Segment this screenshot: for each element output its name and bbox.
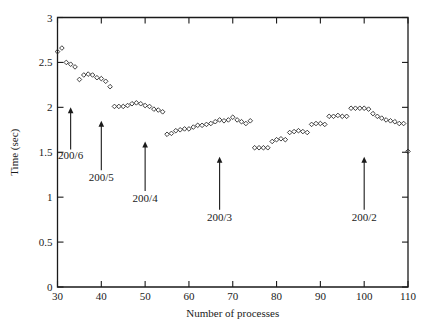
- data-point: [64, 60, 69, 65]
- data-point: [204, 122, 209, 127]
- annotation-arrowhead-icon: [68, 107, 74, 113]
- data-point: [274, 137, 279, 142]
- data-point: [81, 73, 86, 78]
- data-point: [379, 116, 384, 121]
- annotations-layer: 200/6200/5200/4200/3200/2: [58, 107, 377, 222]
- data-point: [147, 104, 152, 109]
- data-point: [73, 65, 78, 70]
- data-point: [173, 128, 178, 133]
- data-point: [108, 84, 113, 89]
- y-tick-label: 0: [47, 281, 53, 293]
- data-point: [239, 119, 244, 124]
- data-point: [230, 115, 235, 120]
- data-point: [371, 111, 376, 116]
- axis-labels-layer: 3040506070809010011000.511.522.53Number …: [8, 12, 417, 320]
- annotation-arrowhead-icon: [142, 141, 148, 147]
- data-point: [322, 122, 327, 127]
- data-point: [99, 76, 104, 81]
- data-point: [217, 118, 222, 123]
- data-point: [296, 128, 301, 133]
- annotation-arrowhead-icon: [99, 121, 105, 127]
- data-point: [152, 107, 157, 112]
- x-tick-label: 70: [227, 290, 239, 302]
- data-point: [235, 118, 240, 123]
- annotation-label: 200/2: [352, 211, 377, 223]
- data-point: [90, 73, 95, 78]
- data-point: [283, 137, 288, 142]
- y-tick-label: 3: [47, 12, 53, 24]
- data-point: [301, 129, 306, 134]
- y-tick-label: 0.5: [39, 236, 53, 248]
- y-tick-label: 2: [47, 101, 53, 113]
- x-tick-label: 90: [315, 290, 327, 302]
- x-tick-label: 50: [140, 290, 152, 302]
- data-point: [287, 130, 292, 135]
- y-tick-label: 2.5: [39, 56, 53, 68]
- data-point: [393, 119, 398, 124]
- data-point: [178, 127, 183, 132]
- data-point: [143, 103, 148, 108]
- data-point: [366, 107, 371, 112]
- annotation-label: 200/3: [207, 211, 233, 223]
- data-point: [270, 139, 275, 144]
- data-point: [209, 121, 214, 126]
- data-point: [134, 101, 139, 106]
- scatter-plot: 200/6200/5200/4200/3200/2 30405060708090…: [0, 0, 435, 336]
- data-point: [248, 119, 253, 124]
- data-point: [279, 136, 284, 141]
- data-point: [292, 129, 297, 134]
- x-tick-label: 40: [96, 290, 108, 302]
- data-point: [169, 131, 174, 136]
- data-point: [191, 125, 196, 130]
- x-tick-label: 30: [52, 290, 64, 302]
- axes-layer: [58, 18, 409, 288]
- data-point: [375, 114, 380, 119]
- data-point: [244, 121, 249, 126]
- data-point: [77, 77, 82, 82]
- data-point: [156, 108, 161, 113]
- data-point: [60, 46, 65, 51]
- data-point: [86, 72, 91, 77]
- chart-figure: 200/6200/5200/4200/3200/2 30405060708090…: [0, 0, 435, 336]
- y-tick-label: 1: [47, 191, 53, 203]
- data-point: [213, 119, 218, 124]
- x-axis-title: Number of processes: [186, 307, 279, 319]
- x-tick-label: 80: [271, 290, 283, 302]
- data-markers-layer: [55, 46, 410, 154]
- y-axis-title: Time (sec): [8, 128, 21, 175]
- annotation-label: 200/6: [58, 149, 84, 161]
- data-point: [160, 110, 165, 115]
- annotation-label: 200/5: [89, 171, 115, 183]
- data-point: [125, 103, 130, 108]
- data-point: [384, 118, 389, 123]
- data-point: [226, 118, 231, 123]
- x-tick-label: 60: [183, 290, 195, 302]
- data-point: [305, 130, 310, 135]
- data-point: [388, 119, 393, 124]
- data-point: [68, 62, 73, 67]
- data-point: [222, 119, 227, 124]
- annotation-arrowhead-icon: [361, 157, 367, 163]
- x-tick-label: 110: [400, 290, 417, 302]
- data-point: [95, 75, 100, 80]
- plot-frame: [58, 18, 409, 288]
- annotation-label: 200/4: [133, 192, 159, 204]
- data-point: [103, 79, 108, 84]
- annotation-arrowhead-icon: [217, 157, 223, 163]
- data-point: [130, 101, 135, 106]
- data-point: [138, 101, 143, 106]
- y-tick-label: 1.5: [39, 146, 53, 158]
- data-point: [336, 113, 341, 118]
- data-point: [165, 132, 170, 137]
- data-point: [309, 122, 314, 127]
- x-tick-label: 100: [356, 290, 373, 302]
